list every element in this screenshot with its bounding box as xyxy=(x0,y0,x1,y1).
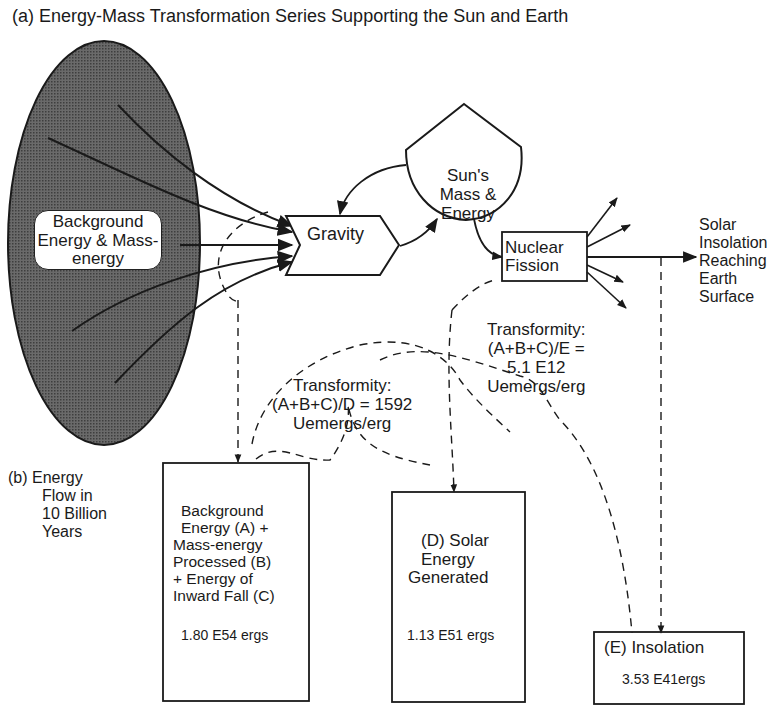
fission-label-line: Fission xyxy=(505,257,564,275)
box-d-value: 1.13 E51 ergs xyxy=(407,628,494,644)
box-abc-label: Background Energy (A) + Mass-energy Proc… xyxy=(173,502,275,604)
box-e-label: (E) Insolation xyxy=(604,638,704,657)
sun-to-fission-arrow xyxy=(474,219,502,257)
solar-insolation-label: Solar Insolation Reaching Earth Surface xyxy=(699,216,768,306)
solar-label-line: Surface xyxy=(699,288,768,306)
solar-label-line: Solar xyxy=(699,216,768,234)
transformity-line: Uemergs/erg xyxy=(272,414,412,433)
transformity-line: Uemergs/erg xyxy=(487,377,586,396)
box-d-line: (D) Solar xyxy=(421,532,489,551)
fission-label-line: Nuclear xyxy=(505,239,564,257)
diagram-title: (a) Energy-Mass Transformation Series Su… xyxy=(12,6,568,26)
section-b-label-line: Flow in xyxy=(8,487,107,505)
section-b-label: (b) Energy Flow in 10 Billion Years xyxy=(8,469,107,541)
section-b-label-line: Years xyxy=(8,523,107,541)
section-b-label-line: 10 Billion xyxy=(8,505,107,523)
box-abc-line: Background xyxy=(173,502,275,519)
box-abc-line: + Energy of xyxy=(173,570,275,587)
transformity-e: Transformity: (A+B+C)/E = 5.1 E12 Uemerg… xyxy=(487,320,586,396)
box-d xyxy=(392,492,525,702)
sun-label-line: Mass & xyxy=(428,185,508,204)
box-d-line: Generated xyxy=(408,569,489,588)
box-abc-line: Inward Fall (C) xyxy=(173,587,275,604)
transformity-line: Transformity: xyxy=(487,320,586,339)
sun-label: Sun's Mass & Energy xyxy=(428,166,508,223)
sun-label-line: Sun's xyxy=(428,166,508,185)
box-abc-line: Processed (B) xyxy=(173,553,275,570)
box-d-line: Energy xyxy=(421,551,489,570)
background-energy-label: Background Energy & Mass-energy xyxy=(34,210,162,270)
box-e-value: 3.53 E41ergs xyxy=(622,672,705,688)
sun-to-gravity-arrow xyxy=(340,165,406,214)
solar-label-line: Earth xyxy=(699,270,768,288)
nuclear-fission-label: Nuclear Fission xyxy=(505,239,564,276)
transformity-line: (A+B+C)/E = xyxy=(487,339,586,358)
transformity-line: Transformity: xyxy=(272,376,412,395)
transformity-d: Transformity: (A+B+C)/D = 1592 Uemergs/e… xyxy=(272,376,412,433)
box-abc-value: 1.80 E54 ergs xyxy=(181,628,268,644)
gravity-label: Gravity xyxy=(307,224,364,244)
section-b-label-line: (b) Energy xyxy=(8,469,107,487)
solar-label-line: Reaching xyxy=(699,252,768,270)
fission-radiation-arrows xyxy=(587,198,630,308)
box-abc-line: Energy (A) + xyxy=(173,519,275,536)
box-abc-line: Mass-energy xyxy=(173,536,275,553)
box-d-label: (D) Solar Energy Generated xyxy=(421,532,489,588)
transformity-line: (A+B+C)/D = 1592 xyxy=(272,395,412,414)
diagram-canvas xyxy=(0,0,780,727)
transformity-line: 5.1 E12 xyxy=(487,358,586,377)
sun-label-line: Energy xyxy=(428,204,508,223)
solar-label-line: Insolation xyxy=(699,234,768,252)
